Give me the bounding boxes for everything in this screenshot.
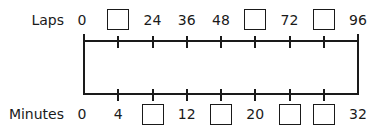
- laps-answer-box[interactable]: [244, 9, 266, 30]
- laps-tick-label: 24: [144, 12, 162, 28]
- minutes-tick: [117, 89, 119, 101]
- laps-tick: [323, 36, 325, 48]
- minutes-tick: [186, 89, 188, 101]
- laps-tick: [220, 36, 222, 48]
- laps-tick: [254, 36, 256, 48]
- laps-answer-box[interactable]: [107, 9, 129, 30]
- minutes-tick-label: 0: [78, 106, 87, 122]
- laps-tick-label: 72: [281, 12, 299, 28]
- top-axis-title: Laps: [31, 12, 64, 28]
- laps-tick-label: 48: [212, 12, 230, 28]
- minutes-tick: [152, 89, 154, 101]
- laps-tick-label: 36: [178, 12, 196, 28]
- minutes-tick-label: 20: [246, 106, 264, 122]
- minutes-answer-box[interactable]: [313, 104, 335, 125]
- left-connector-line: [83, 34, 85, 95]
- minutes-tick-label: 4: [114, 106, 123, 122]
- laps-tick: [186, 36, 188, 48]
- double-number-line-diagram: Laps Minutes 02436487296 04122032: [0, 0, 379, 131]
- minutes-tick: [289, 89, 291, 101]
- laps-tick: [152, 36, 154, 48]
- minutes-tick-label: 32: [349, 106, 367, 122]
- minutes-answer-box[interactable]: [210, 104, 232, 125]
- laps-tick: [289, 36, 291, 48]
- laps-tick-label: 0: [78, 12, 87, 28]
- minutes-answer-box[interactable]: [142, 104, 164, 125]
- laps-tick: [117, 36, 119, 48]
- laps-tick-label: 96: [349, 12, 367, 28]
- minutes-answer-box[interactable]: [279, 104, 301, 125]
- minutes-tick: [220, 89, 222, 101]
- bottom-axis-title: Minutes: [9, 106, 64, 122]
- minutes-tick: [323, 89, 325, 101]
- right-connector-line: [357, 34, 359, 95]
- minutes-tick-label: 12: [178, 106, 196, 122]
- laps-answer-box[interactable]: [313, 9, 335, 30]
- minutes-tick: [254, 89, 256, 101]
